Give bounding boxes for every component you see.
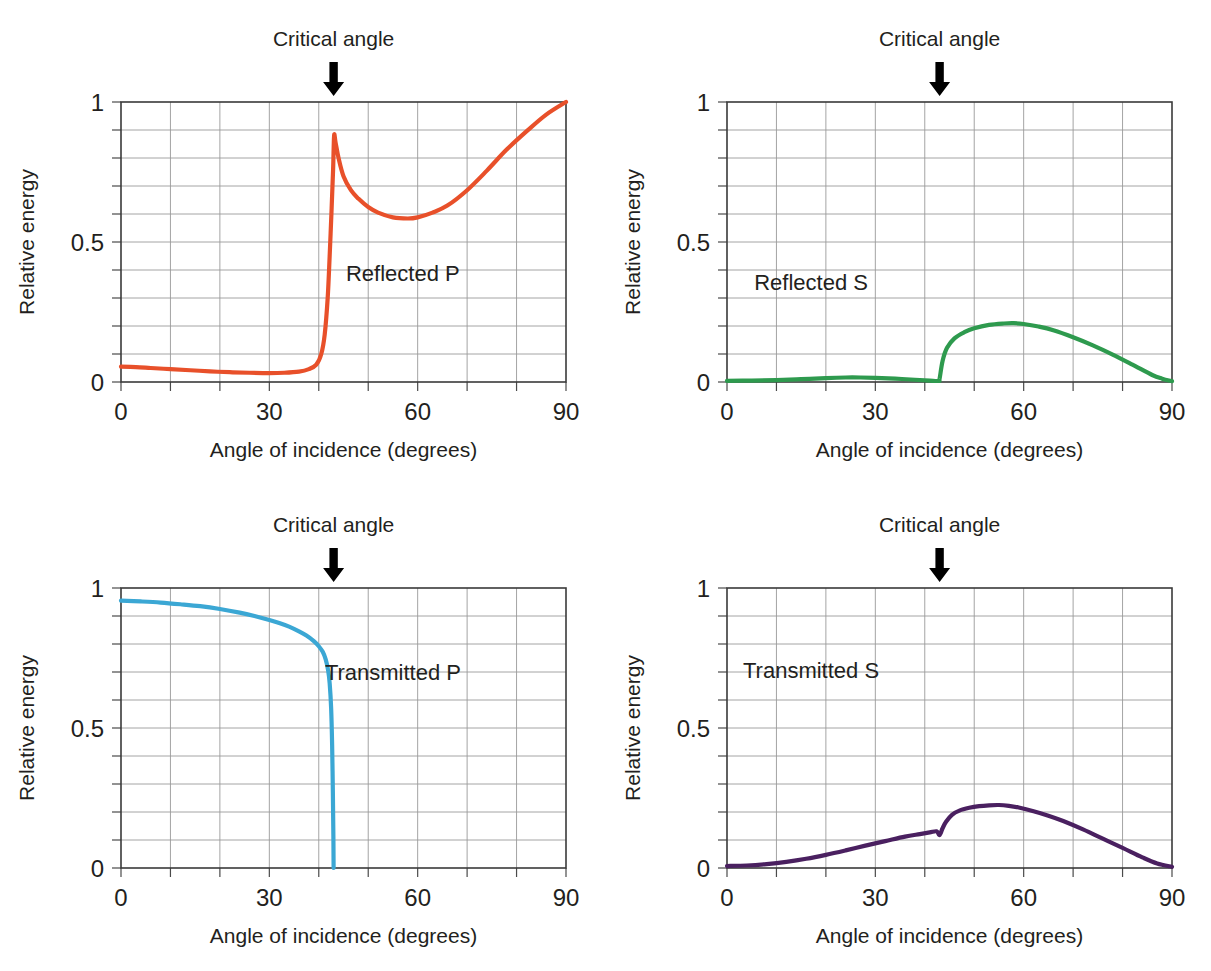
chart-panel-reflected-p: Critical angleReflected P030609000.51Ang… <box>0 0 605 485</box>
critical-angle-label: Critical angle <box>879 513 1000 536</box>
x-tick-labels: 0306090 <box>114 884 579 911</box>
y-axis-label: Relative energy <box>621 169 644 315</box>
plot-reflected-p: Critical angleReflected P030609000.51Ang… <box>0 0 605 485</box>
x-tick-label-60: 60 <box>404 884 431 911</box>
x-tick-label-0: 0 <box>114 884 127 911</box>
y-tick-labels: 00.51 <box>677 89 710 396</box>
y-tick-label-0: 0 <box>697 369 710 396</box>
x-tick-labels: 0306090 <box>720 884 1185 911</box>
plot-gridlines <box>727 588 1172 868</box>
critical-angle-arrow-icon <box>323 548 344 582</box>
energy-partitioning-figure: Critical angleReflected P030609000.51Ang… <box>0 0 1211 971</box>
critical-angle-annotation: Critical angle <box>879 513 1000 582</box>
series-label-transmitted-p: Transmitted P <box>325 660 461 685</box>
x-tick-label-0: 0 <box>720 398 733 425</box>
y-tick-labels: 00.51 <box>677 575 710 882</box>
critical-angle-annotation: Critical angle <box>273 27 394 96</box>
y-axis-label: Relative energy <box>15 655 38 801</box>
critical-angle-arrow-icon <box>929 62 950 96</box>
data-curve-reflected-p <box>121 102 566 373</box>
y-tick-labels: 00.51 <box>71 89 104 396</box>
data-curve-transmitted-p <box>121 601 334 868</box>
x-tick-label-0: 0 <box>720 884 733 911</box>
series-label-reflected-p: Reflected P <box>346 261 460 286</box>
y-tick-label-0: 0 <box>91 855 104 882</box>
plot-transmitted-s: Critical angleTransmitted S030609000.51A… <box>606 486 1211 971</box>
plot-gridlines <box>727 102 1172 382</box>
x-axis-label: Angle of incidence (degrees) <box>210 438 477 461</box>
y-tick-label-0: 0 <box>91 369 104 396</box>
x-tick-label-30: 30 <box>862 884 889 911</box>
plot-reflected-s: Critical angleReflected S030609000.51Ang… <box>606 0 1211 485</box>
series-label-transmitted-s: Transmitted S <box>743 658 879 683</box>
x-tick-labels: 0306090 <box>114 398 579 425</box>
critical-angle-annotation: Critical angle <box>879 27 1000 96</box>
y-tick-label-0.5: 0.5 <box>71 229 104 256</box>
critical-angle-label: Critical angle <box>273 513 394 536</box>
critical-angle-annotation: Critical angle <box>273 513 394 582</box>
data-curve-transmitted-s <box>727 805 1172 867</box>
y-axis-label: Relative energy <box>621 655 644 801</box>
critical-angle-label: Critical angle <box>273 27 394 50</box>
axis-ticks <box>112 102 566 391</box>
y-axis-label: Relative energy <box>15 169 38 315</box>
y-tick-label-0.5: 0.5 <box>71 715 104 742</box>
x-tick-label-60: 60 <box>1010 884 1037 911</box>
y-tick-labels: 00.51 <box>71 575 104 882</box>
x-tick-label-90: 90 <box>553 884 580 911</box>
x-axis-label: Angle of incidence (degrees) <box>816 438 1083 461</box>
y-tick-label-0: 0 <box>697 855 710 882</box>
x-tick-label-90: 90 <box>553 398 580 425</box>
x-axis-label: Angle of incidence (degrees) <box>210 924 477 947</box>
critical-angle-label: Critical angle <box>879 27 1000 50</box>
x-tick-label-90: 90 <box>1159 884 1186 911</box>
y-tick-label-1: 1 <box>697 89 710 116</box>
x-tick-label-60: 60 <box>1010 398 1037 425</box>
x-tick-label-90: 90 <box>1159 398 1186 425</box>
x-axis-label: Angle of incidence (degrees) <box>816 924 1083 947</box>
plot-gridlines <box>121 588 566 868</box>
x-tick-label-0: 0 <box>114 398 127 425</box>
series-label-reflected-s: Reflected S <box>754 270 868 295</box>
chart-panel-transmitted-p: Critical angleTransmitted P030609000.51A… <box>0 486 605 971</box>
plot-gridlines <box>121 102 566 382</box>
x-tick-label-30: 30 <box>256 398 283 425</box>
x-tick-label-30: 30 <box>862 398 889 425</box>
axis-ticks <box>112 588 566 877</box>
chart-panel-transmitted-s: Critical angleTransmitted S030609000.51A… <box>606 486 1211 971</box>
x-tick-label-60: 60 <box>404 398 431 425</box>
chart-panel-reflected-s: Critical angleReflected S030609000.51Ang… <box>606 0 1211 485</box>
y-tick-label-0.5: 0.5 <box>677 715 710 742</box>
critical-angle-arrow-icon <box>929 548 950 582</box>
axis-ticks <box>718 588 1172 877</box>
y-tick-label-1: 1 <box>91 575 104 602</box>
y-tick-label-0.5: 0.5 <box>677 229 710 256</box>
data-curve-reflected-s <box>727 323 1172 381</box>
x-tick-label-30: 30 <box>256 884 283 911</box>
y-tick-label-1: 1 <box>91 89 104 116</box>
critical-angle-arrow-icon <box>323 62 344 96</box>
y-tick-label-1: 1 <box>697 575 710 602</box>
x-tick-labels: 0306090 <box>720 398 1185 425</box>
plot-transmitted-p: Critical angleTransmitted P030609000.51A… <box>0 486 605 971</box>
